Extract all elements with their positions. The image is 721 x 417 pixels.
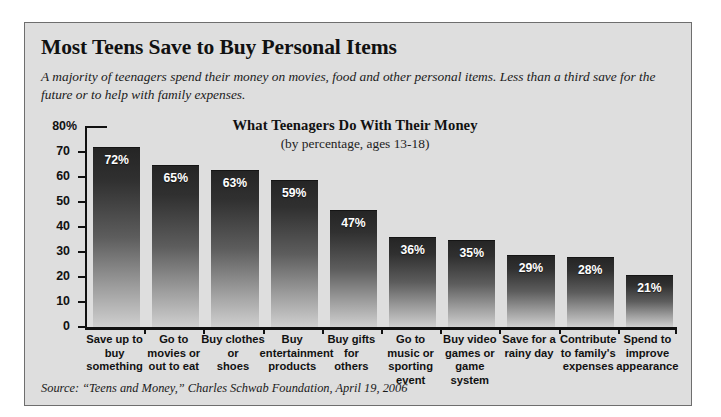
x-axis-category-label-line: rainy day: [496, 347, 561, 361]
x-axis-category-label: Buyentertainmentproducts: [260, 333, 325, 374]
x-axis-category-label-line: to family's: [556, 347, 621, 361]
bar-value-label: 47%: [330, 216, 377, 230]
x-axis-category-label-line: Buy video: [437, 333, 502, 347]
x-axis-category-label: Buy videogames orgame system: [437, 333, 502, 388]
y-axis-tick: 40: [78, 226, 87, 228]
x-axis-category-label-line: for: [319, 347, 384, 361]
bar: 72%: [93, 147, 140, 327]
x-axis-category-label: Save up tobuysomething: [82, 333, 147, 374]
x-axis-category-label-line: appearance: [615, 360, 680, 374]
x-axis-category-label: Go tomovies orout to eat: [141, 333, 206, 374]
x-axis-category-label-line: products: [260, 360, 325, 374]
y-axis-tick-label: 10: [56, 294, 70, 308]
bar-value-label: 36%: [389, 243, 436, 257]
y-axis-tick-label: 60: [56, 169, 70, 183]
x-axis-category-label-line: expenses: [556, 360, 621, 374]
x-axis-category-label-line: Go to: [378, 333, 443, 347]
y-axis-tick: 80%: [85, 126, 107, 128]
y-axis-tick: 20: [78, 276, 87, 278]
y-axis-tick-label: 40: [56, 219, 70, 233]
x-axis-category-label-line: improve: [615, 347, 680, 361]
y-axis-tick: 50: [78, 201, 87, 203]
y-axis-tick-label: 20: [56, 269, 70, 283]
infographic-root: Most Teens Save to Buy Personal Items A …: [0, 0, 721, 417]
x-axis-category-label-line: others: [319, 360, 384, 374]
x-axis-category-label: Spend toimproveappearance: [615, 333, 680, 374]
y-axis-tick: 10: [78, 301, 87, 303]
x-axis-category-label-line: shoes: [200, 360, 265, 374]
bar-value-label: 63%: [211, 176, 258, 190]
x-axis-category-label-line: out to eat: [141, 360, 206, 374]
bar-chart: What Teenagers Do With Their Money (by p…: [39, 117, 679, 385]
bar-value-label: 21%: [626, 281, 673, 295]
x-axis-category-label-line: entertainment: [260, 347, 325, 361]
bar: 63%: [211, 170, 258, 328]
x-axis-category-label-line: Save up to: [82, 333, 147, 347]
y-axis-tick-label: 30: [56, 244, 70, 258]
y-axis-tick-label: 70: [56, 144, 70, 158]
bar-value-label: 72%: [93, 153, 140, 167]
bar-value-label: 28%: [567, 263, 614, 277]
source-note: Source: “Teens and Money,” Charles Schwa…: [41, 381, 407, 396]
x-axis-category-label-line: Buy: [260, 333, 325, 347]
y-axis-tick-label: 0: [63, 319, 70, 333]
bar-value-label: 29%: [507, 261, 554, 275]
panel-inner: Most Teens Save to Buy Personal Items A …: [25, 23, 691, 405]
bar: 28%: [567, 257, 614, 327]
x-axis-category-label-line: Buy gifts: [319, 333, 384, 347]
y-axis-tick: 60: [78, 176, 87, 178]
x-axis-category-label-line: Go to: [141, 333, 206, 347]
subtitle-deck: A majority of teenagers spend their mone…: [41, 68, 669, 104]
bar-value-label: 59%: [271, 186, 318, 200]
infographic-panel: Most Teens Save to Buy Personal Items A …: [24, 22, 692, 406]
bar-value-label: 65%: [152, 171, 199, 185]
page-title: Most Teens Save to Buy Personal Items: [41, 36, 677, 59]
x-axis-category-label: Go tomusic orsportingevent: [378, 333, 443, 388]
x-axis-category-label-line: sporting: [378, 360, 443, 374]
x-axis-category-label-line: Spend to: [615, 333, 680, 347]
y-axis-tick-label: 80%: [52, 119, 77, 133]
x-axis-category-label-line: music or: [378, 347, 443, 361]
y-axis-tick-label: 50: [56, 194, 70, 208]
x-axis-category-label-line: Save for a: [496, 333, 561, 347]
x-axis-category-label-line: or: [200, 347, 265, 361]
bar: 35%: [448, 240, 495, 328]
x-axis-category-label-line: Contribute: [556, 333, 621, 347]
x-axis-category-label: Contributeto family'sexpenses: [556, 333, 621, 374]
x-axis-category-label: Buy clothesorshoes: [200, 333, 265, 374]
x-axis-category-label-line: buy: [82, 347, 147, 361]
bar: 47%: [330, 210, 377, 328]
x-axis-category-label-line: something: [82, 360, 147, 374]
bar: 36%: [389, 237, 436, 327]
x-axis-tick: [675, 327, 677, 334]
x-axis-category-label: Save for arainy day: [496, 333, 561, 360]
bar: 65%: [152, 165, 199, 328]
y-axis-tick: 30: [78, 251, 87, 253]
bar-value-label: 35%: [448, 246, 495, 260]
x-axis-category-label: Buy giftsforothers: [319, 333, 384, 374]
y-axis-tick: 70: [78, 151, 87, 153]
x-axis-category-label-line: game system: [437, 360, 502, 387]
y-axis-tick: 0: [78, 326, 87, 328]
plot-area: 01020304050607080%72%Save up tobuysometh…: [85, 127, 677, 327]
bar: 29%: [507, 255, 554, 328]
x-axis-category-label-line: Buy clothes: [200, 333, 265, 347]
x-axis-category-label-line: games or: [437, 347, 502, 361]
bar: 21%: [626, 275, 673, 328]
bar: 59%: [271, 180, 318, 328]
x-axis-category-label-line: movies or: [141, 347, 206, 361]
